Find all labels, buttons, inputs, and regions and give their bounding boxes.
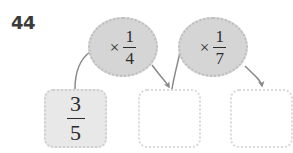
value-box-3[interactable] bbox=[230, 89, 293, 148]
operator-1-denominator: 4 bbox=[125, 50, 136, 67]
value-box-1-denominator: 5 bbox=[68, 122, 83, 144]
fraction-bar bbox=[123, 47, 136, 48]
arrow-op1-to-box2 bbox=[152, 65, 169, 87]
operator-2-fraction: 1 7 bbox=[213, 28, 226, 67]
fraction-bar bbox=[67, 118, 85, 119]
arrow-box1-to-op1 bbox=[75, 52, 90, 89]
operator-1-content: × 1 4 bbox=[110, 28, 137, 67]
operator-2-denominator: 7 bbox=[215, 50, 226, 67]
multiply-icon: × bbox=[110, 39, 120, 56]
value-box-1-numerator: 3 bbox=[68, 93, 83, 115]
worksheet-canvas: 44 × 1 4 × 1 7 bbox=[0, 0, 293, 153]
operator-1-fraction: 1 4 bbox=[123, 28, 136, 67]
operator-oval-2: × 1 7 bbox=[178, 17, 248, 77]
operator-2-content: × 1 7 bbox=[200, 28, 227, 67]
operator-2-numerator: 1 bbox=[215, 28, 226, 45]
value-box-2[interactable] bbox=[138, 89, 201, 148]
multiply-icon: × bbox=[200, 39, 210, 56]
arrow-op2-to-box3 bbox=[245, 66, 262, 86]
arrow-box2-to-op2 bbox=[172, 52, 180, 89]
fraction-bar bbox=[213, 47, 226, 48]
operator-1-numerator: 1 bbox=[125, 28, 136, 45]
operator-oval-1: × 1 4 bbox=[88, 17, 158, 77]
value-box-1-fraction: 3 5 bbox=[67, 93, 85, 144]
value-box-1[interactable]: 3 5 bbox=[44, 89, 107, 148]
question-number: 44 bbox=[11, 14, 35, 32]
